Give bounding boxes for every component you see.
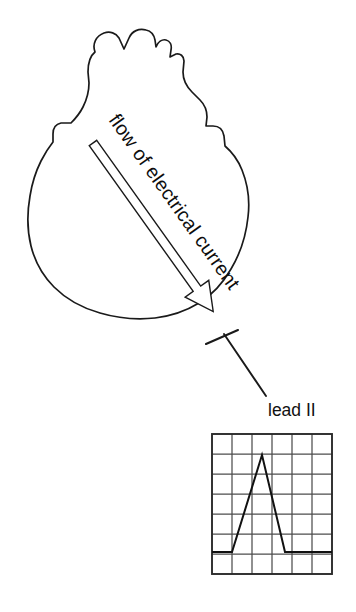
- lead-electrode-group: [206, 330, 266, 396]
- diagram-canvas: flow of electrical current lead II: [0, 0, 356, 612]
- lead-electrode-marker: [206, 330, 238, 344]
- ecg-heart-diagram: flow of electrical current lead II: [0, 0, 356, 612]
- lead-label: lead II: [268, 400, 316, 420]
- lead-leader-line: [224, 334, 266, 396]
